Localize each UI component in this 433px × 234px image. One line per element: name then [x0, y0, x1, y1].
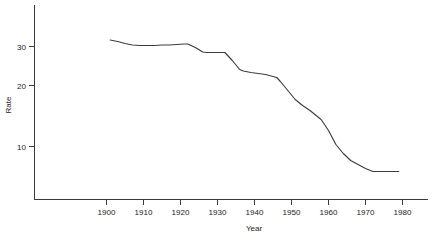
y-tick-labels: 30 20 10 — [17, 43, 26, 152]
y-tick-marks — [29, 47, 35, 147]
data-series-rate — [110, 40, 399, 172]
x-tick-label-1960: 1960 — [320, 208, 338, 217]
y-tick-label-30: 30 — [17, 43, 26, 52]
y-tick-label-10: 10 — [17, 143, 26, 152]
y-axis-title: Rate — [4, 96, 13, 113]
line-chart: 30 20 10 1900 1910 1920 1930 1940 1950 1… — [0, 0, 433, 234]
x-tick-label-1910: 1910 — [135, 208, 153, 217]
x-tick-label-1950: 1950 — [283, 208, 301, 217]
x-tick-label-1920: 1920 — [172, 208, 190, 217]
x-tick-label-1900: 1900 — [98, 208, 116, 217]
x-tick-label-1940: 1940 — [246, 208, 264, 217]
x-tick-label-1980: 1980 — [394, 208, 412, 217]
x-tick-marks — [107, 200, 403, 206]
x-axis-title: Year — [246, 224, 263, 233]
x-tick-labels: 1900 1910 1920 1930 1940 1950 1960 1970 … — [98, 208, 412, 217]
x-tick-label-1930: 1930 — [209, 208, 227, 217]
chart-canvas: 30 20 10 1900 1910 1920 1930 1940 1950 1… — [0, 0, 433, 234]
x-tick-label-1970: 1970 — [357, 208, 375, 217]
y-tick-label-20: 20 — [17, 82, 26, 91]
